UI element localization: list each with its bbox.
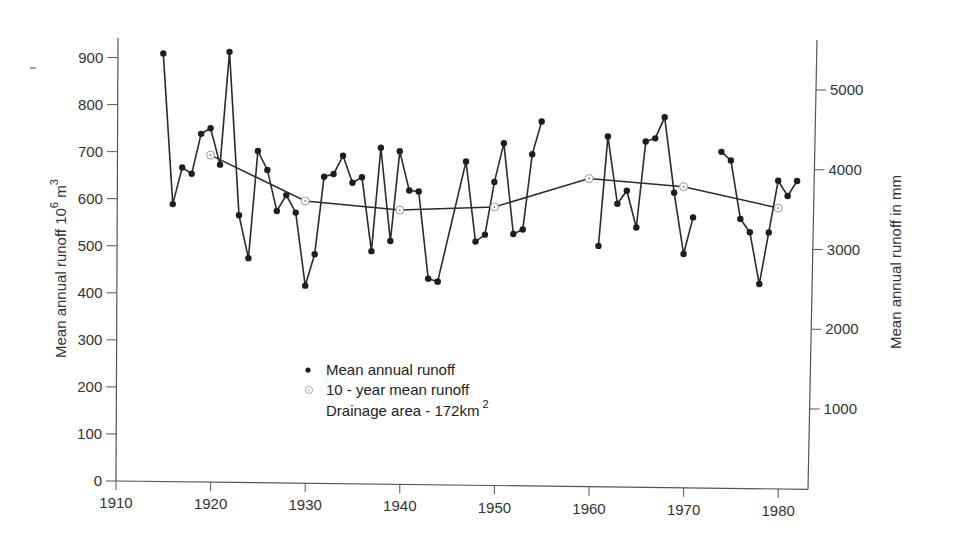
annual-runoff-point <box>321 174 327 180</box>
plot-frame <box>116 38 817 489</box>
annual-runoff-point <box>539 118 545 124</box>
legend-label-ten-year: 10 - year mean runoff <box>326 381 470 398</box>
annual-runoff-point <box>472 238 478 244</box>
ten-year-mean-marker-dot <box>494 206 496 208</box>
annual-runoff-point <box>387 238 393 244</box>
annual-runoff-point <box>198 131 204 137</box>
y-tick-label: 800 <box>78 96 103 113</box>
x-tick-label: 1950 <box>478 499 511 516</box>
annual-runoff-point <box>510 231 516 237</box>
annual-runoff-point <box>245 255 251 261</box>
annual-runoff-point <box>311 251 317 257</box>
annual-runoff-point <box>520 226 526 232</box>
annual-runoff-point <box>718 149 724 155</box>
annual-runoff-point <box>416 188 422 194</box>
annual-runoff-point <box>434 278 440 284</box>
drainage-area-annotation: Drainage area - 172km2 <box>326 398 489 419</box>
ten-year-mean-marker-dot <box>399 209 401 211</box>
annual-runoff-point <box>463 158 469 164</box>
annual-runoff-point <box>482 231 488 237</box>
data-series <box>160 49 800 289</box>
legend-open-circle-dot <box>308 389 310 391</box>
annual-runoff-point <box>274 208 280 214</box>
annual-runoff-point <box>170 201 176 207</box>
y-tick-label: 200 <box>77 378 102 395</box>
runoff-chart: 19101920193019401950196019701980 0100200… <box>0 0 953 552</box>
annual-runoff-point <box>643 138 649 144</box>
x-tick-label: 1910 <box>99 494 132 511</box>
y-tick-label: 700 <box>78 143 103 160</box>
ten-year-mean-marker-dot <box>210 154 212 156</box>
ten-year-mean-marker-dot <box>304 200 306 202</box>
x-axis: 19101920193019401950196019701980 <box>99 481 795 519</box>
bottom-axis-line <box>116 481 808 489</box>
annual-runoff-point <box>690 214 696 220</box>
annual-runoff-point <box>680 251 686 257</box>
annual-runoff-point <box>529 151 535 157</box>
annual-runoff-point <box>624 188 630 194</box>
right-axis-line <box>808 40 817 489</box>
legend-label-annual: Mean annual runoff <box>326 361 456 378</box>
annual-runoff-point <box>595 243 601 249</box>
right-y-tick-label: 4000 <box>828 161 861 178</box>
y-tick-label: 900 <box>78 49 103 66</box>
right-y-tick-label: 3000 <box>827 241 860 258</box>
legend-dot-icon <box>305 367 310 372</box>
annual-runoff-point <box>179 164 185 170</box>
annual-runoff-point <box>207 125 213 131</box>
y-axis-left: 0100200300400500600700800900 <box>77 49 117 489</box>
annual-runoff-point <box>491 179 497 185</box>
annual-runoff-point <box>652 135 658 141</box>
y-tick-label: 500 <box>78 237 103 254</box>
annual-runoff-point <box>293 209 299 215</box>
x-tick-label: 1930 <box>289 496 322 513</box>
annual-runoff-point <box>349 180 355 186</box>
annual-runoff-point <box>766 229 772 235</box>
y-tick-label: 400 <box>78 284 103 301</box>
annual-runoff-point <box>775 178 781 184</box>
annual-runoff-point <box>425 275 431 281</box>
right-y-tick-label: 1000 <box>824 400 857 417</box>
annual-runoff-point <box>728 157 734 163</box>
axis-titles: Mean annual runoff 106 m3Mean annual run… <box>48 175 904 358</box>
annual-runoff-point <box>784 193 790 199</box>
annual-runoff-point <box>226 49 232 55</box>
annual-runoff-point <box>406 187 412 193</box>
y-axis-right: 10002000300040005000 <box>810 81 864 417</box>
annual-runoff-point <box>397 148 403 154</box>
y-tick-label: 100 <box>77 425 102 442</box>
annual-runoff-point <box>188 171 194 177</box>
legend: Mean annual runoff10 - year mean runoffD… <box>305 361 488 419</box>
x-tick-label: 1960 <box>572 500 605 517</box>
annual-runoff-point <box>605 133 611 139</box>
y-tick-label: 600 <box>78 190 103 207</box>
annual-runoff-point <box>340 153 346 159</box>
annual-runoff-line <box>721 152 797 284</box>
right-y-tick-label: 5000 <box>830 81 863 98</box>
annual-runoff-point <box>302 282 308 288</box>
annual-runoff-point <box>160 50 166 56</box>
annual-runoff-line <box>438 121 542 281</box>
annual-runoff-point <box>747 229 753 235</box>
annual-runoff-point <box>671 189 677 195</box>
x-tick-label: 1940 <box>383 497 416 514</box>
y-axis-title-right: Mean annual runoff in mm <box>887 175 904 349</box>
annual-runoff-point <box>614 201 620 207</box>
annual-runoff-point <box>264 167 270 173</box>
annual-runoff-point <box>756 281 762 287</box>
annual-runoff-point <box>501 140 507 146</box>
ten-year-mean-marker-dot <box>777 207 779 209</box>
annual-runoff-point <box>633 224 639 230</box>
x-tick-label: 1970 <box>667 501 700 518</box>
annual-runoff-point <box>368 248 374 254</box>
right-y-tick-label: 2000 <box>825 320 858 337</box>
ten-year-mean-marker-dot <box>588 178 590 180</box>
x-tick-label: 1920 <box>194 495 227 512</box>
annual-runoff-point <box>378 145 384 151</box>
y-tick-label: 300 <box>77 331 102 348</box>
annual-runoff-point <box>794 178 800 184</box>
annual-runoff-point <box>359 174 365 180</box>
annual-runoff-point <box>236 212 242 218</box>
annual-runoff-point <box>661 114 667 120</box>
annual-runoff-line <box>163 52 437 286</box>
